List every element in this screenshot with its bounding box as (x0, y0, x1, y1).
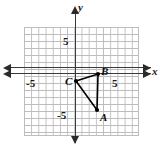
y-axis-tick-negative-5: -5 (57, 110, 66, 121)
y-axis-tick-positive-5: 5 (63, 36, 69, 47)
x-axis-secondary-line (6, 67, 151, 68)
y-axis-line (75, 10, 76, 143)
vertex-label-a: A (100, 112, 107, 123)
vertex-label-b: B (101, 66, 108, 77)
coordinate-plane-figure: y x 5 5 -5 -5 C B A (0, 0, 164, 152)
x-axis-label: x (152, 66, 158, 77)
y-axis-label: y (78, 2, 83, 13)
x-axis-tick-negative-5: -5 (26, 78, 35, 89)
x-axis-left-arrow-icon (3, 70, 11, 78)
grid-border (24, 27, 139, 136)
x-axis-right-arrow-icon (143, 70, 151, 78)
vertex-label-c: C (65, 76, 72, 87)
y-axis-down-arrow-icon (71, 136, 79, 144)
x-axis-tick-positive-5: 5 (112, 78, 118, 89)
x-axis-line (6, 73, 151, 74)
